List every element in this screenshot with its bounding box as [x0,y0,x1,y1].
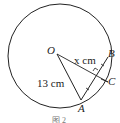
label-C: C [108,76,115,87]
circle-diagram [0,0,120,123]
label-B: B [108,48,115,59]
label-radius: 13 cm [37,78,64,89]
label-distance: x cm [74,55,96,66]
label-O: O [47,45,55,56]
right-angle-mark [93,68,98,71]
figure-caption: 图 2 [52,114,66,123]
label-A: A [78,103,85,114]
